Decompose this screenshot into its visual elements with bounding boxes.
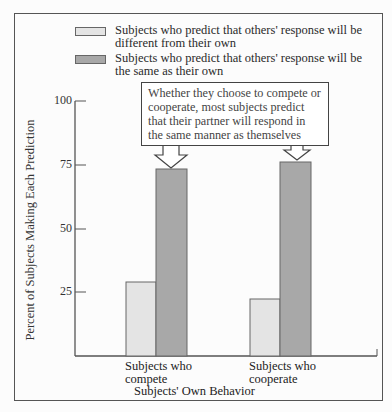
x-axis-title: Subjects' Own Behavior	[134, 384, 255, 399]
callout-arrow-right-icon	[284, 146, 310, 160]
bar-compete-same	[156, 169, 187, 356]
category-label-line: Subjects who	[249, 359, 316, 373]
category-label-line: cooperate	[249, 372, 298, 386]
y-tick-label-75: 75	[42, 157, 72, 172]
callout-line: Whether they choose to compete or	[148, 86, 322, 100]
callout-line: cooperate, most subjects predict	[148, 100, 322, 114]
y-tick-label-50: 50	[42, 221, 72, 236]
bar-cooperate-different	[250, 299, 280, 356]
callout-line: that their partner will respond in	[148, 114, 322, 128]
y-axis-title: Percent of Subjects Making Each Predicti…	[23, 119, 38, 340]
bar-cooperate-same	[280, 162, 311, 356]
category-label-compete: Subjects who compete	[125, 360, 192, 386]
callout-arrow-left-icon	[155, 146, 187, 168]
y-tick-label-25: 25	[42, 284, 72, 299]
callout-line: the same manner as themselves	[148, 128, 322, 142]
category-label-line: Subjects who	[125, 359, 192, 373]
category-label-cooperate: Subjects who cooperate	[249, 360, 316, 386]
bar-compete-different	[126, 282, 156, 356]
y-tick-label-100: 100	[42, 93, 72, 108]
bar-chart	[0, 0, 392, 412]
annotation-callout: Whether they choose to compete or cooper…	[141, 82, 329, 146]
